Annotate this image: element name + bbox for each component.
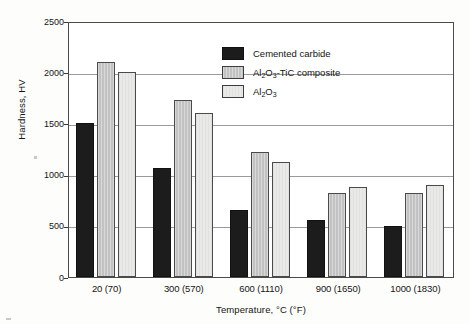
bar	[76, 123, 94, 277]
y-axis-tick-label: 0	[14, 274, 64, 283]
bar	[307, 220, 325, 277]
legend-swatch	[222, 85, 244, 98]
legend-label: Al2O3	[253, 86, 277, 98]
bar	[251, 152, 269, 277]
legend-label: Al2O3-TiC composite	[253, 67, 340, 79]
bar	[405, 193, 423, 277]
bar	[174, 100, 192, 277]
bar	[195, 113, 213, 277]
y-axis-tick-label: 500	[14, 222, 64, 231]
x-axis-tick-label: 1000 (1830)	[368, 284, 462, 294]
y-axis-title: Hardness, HV	[16, 55, 27, 165]
legend-swatch	[222, 47, 244, 60]
legend: Cemented carbideAl2O3-TiC compositeAl2O3	[222, 44, 340, 101]
bar	[328, 193, 346, 277]
bar	[118, 72, 136, 277]
chart-figure: 05001000150020002500 Hardness, HV 20 (70…	[0, 0, 470, 324]
bar	[349, 187, 367, 277]
bar	[272, 162, 290, 277]
bar	[153, 168, 171, 277]
y-axis-tick-label: 1000	[14, 171, 64, 180]
legend-item: Cemented carbide	[222, 44, 340, 63]
y-axis-tick-mark	[64, 278, 68, 279]
x-axis-title: Temperature, °C (°F)	[68, 304, 454, 315]
scan-artifact	[6, 318, 11, 320]
scan-artifact	[34, 156, 37, 159]
bar	[384, 226, 402, 277]
bar	[230, 210, 248, 277]
bar	[426, 185, 444, 277]
y-axis-tick-label: 2500	[14, 18, 64, 27]
legend-item: Al2O3-TiC composite	[222, 63, 340, 82]
legend-swatch	[222, 66, 244, 79]
legend-item: Al2O3	[222, 82, 340, 101]
legend-label: Cemented carbide	[253, 48, 331, 59]
bar	[97, 62, 115, 277]
